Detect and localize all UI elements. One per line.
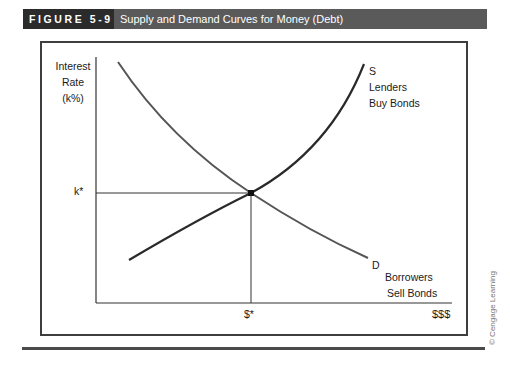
supply-label-s: S [369,63,420,79]
supply-label-line3: Buy Bonds [369,95,420,111]
copyright-notice: © Cengage Learning [488,271,497,345]
demand-curve [118,62,368,258]
supply-label: S Lenders Buy Bonds [369,63,420,111]
equilibrium-marker [248,190,254,196]
supply-label-line2: Lenders [369,79,420,95]
supply-curve [129,64,364,260]
x-axis-label: $$$ [432,308,450,321]
y-axis-label: Interest Rate (k%) [50,58,96,106]
k-star-label: k* [74,185,83,198]
demand-label: Borrowers Sell Bonds [385,269,437,301]
y-axis-label-line1: Interest [50,58,96,74]
y-axis-label-line2: Rate [50,74,96,90]
demand-label-line2: Borrowers [385,269,437,285]
y-axis-label-line3: (k%) [50,90,96,106]
demand-label-line3: Sell Bonds [385,285,437,301]
demand-label-d: D [372,259,380,272]
dollar-star-label: $* [244,308,254,321]
bottom-rule [22,347,485,350]
